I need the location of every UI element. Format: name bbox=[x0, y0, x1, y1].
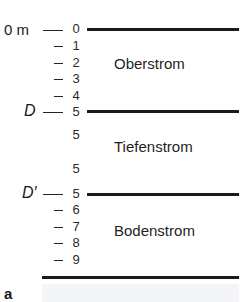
layer-bodenstrom-label: Bodenstrom bbox=[114, 223, 195, 239]
tick-2 bbox=[54, 63, 63, 64]
level-5-d: 5 bbox=[71, 105, 81, 119]
level-9: 9 bbox=[71, 253, 81, 267]
layer-oberstrom-label: Oberstrom bbox=[114, 56, 185, 72]
panel-label: a bbox=[4, 285, 12, 302]
level-6: 6 bbox=[71, 203, 81, 217]
interface-d-prime-label: D′ bbox=[22, 185, 37, 201]
surface-depth-label: 0 m bbox=[4, 22, 29, 38]
tick-9 bbox=[54, 260, 63, 261]
tick-7 bbox=[54, 227, 63, 228]
level-5-tiefen-upper: 5 bbox=[71, 128, 81, 142]
interface-d-label: D bbox=[24, 103, 36, 119]
tick-3 bbox=[54, 79, 63, 80]
tick-4 bbox=[54, 96, 63, 97]
d-tick bbox=[43, 112, 63, 113]
surface-tick bbox=[43, 30, 63, 31]
d-boundary-line bbox=[87, 110, 239, 113]
level-4: 4 bbox=[71, 89, 81, 103]
d-prime-tick bbox=[43, 194, 63, 195]
level-2: 2 bbox=[71, 56, 81, 70]
layer-tiefenstrom-label: Tiefenstrom bbox=[114, 139, 193, 155]
surface-boundary-line bbox=[87, 28, 239, 31]
level-5-tiefen-lower: 5 bbox=[71, 162, 81, 176]
level-7: 7 bbox=[71, 220, 81, 234]
bottom-strip bbox=[42, 284, 239, 302]
d-prime-boundary-line bbox=[87, 193, 239, 196]
level-5-d-prime: 5 bbox=[71, 187, 81, 201]
level-3: 3 bbox=[71, 72, 81, 86]
tick-6 bbox=[54, 210, 63, 211]
tick-8 bbox=[54, 243, 63, 244]
level-0: 0 bbox=[71, 22, 81, 36]
tick-1 bbox=[54, 46, 63, 47]
level-8: 8 bbox=[71, 236, 81, 250]
level-1: 1 bbox=[71, 39, 81, 53]
seafloor-boundary-line bbox=[42, 276, 239, 279]
